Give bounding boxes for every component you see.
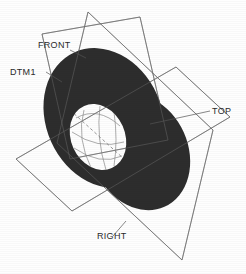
cad-viewport[interactable]: FRONT DTM1 TOP RIGHT <box>0 0 246 274</box>
cad-scene: FRONT DTM1 TOP RIGHT <box>0 0 246 274</box>
label-right[interactable]: RIGHT <box>97 231 127 241</box>
label-dtm1[interactable]: DTM1 <box>10 67 36 77</box>
label-top[interactable]: TOP <box>212 106 231 116</box>
label-front[interactable]: FRONT <box>38 40 71 50</box>
